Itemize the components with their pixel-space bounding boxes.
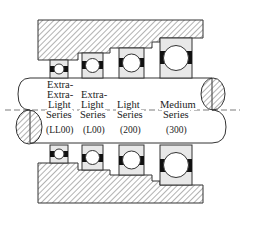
bearing-top-l00	[82, 53, 103, 78]
label-ll00-line4: Series	[45, 110, 73, 120]
label-300-line2: Series	[162, 110, 190, 120]
bearing-top-200	[119, 48, 144, 78]
bearing-bottom-l00	[82, 145, 103, 170]
shaft-section-right	[201, 78, 225, 110]
label-200-line2: Series	[116, 110, 144, 120]
label-l00-code: (L00)	[82, 125, 106, 135]
bearing-top-300	[160, 38, 192, 78]
bearing-top-ll00	[50, 60, 68, 78]
shaft-section-left	[16, 110, 42, 144]
label-200-code: (200)	[119, 125, 142, 135]
label-ll00-code: (LL00)	[45, 125, 74, 135]
label-300-code: (300)	[165, 125, 188, 135]
bearing-bottom-ll00	[50, 145, 68, 163]
label-l00-line3: Series	[79, 110, 107, 120]
bearing-bottom-200	[119, 145, 144, 175]
bearing-bottom-300	[160, 145, 192, 185]
